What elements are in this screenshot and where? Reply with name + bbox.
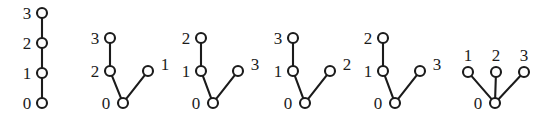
tree-edge — [112, 75, 122, 99]
tree-4: 0123 — [274, 29, 352, 113]
tree-node-label: 1 — [23, 64, 32, 83]
tree-node — [37, 8, 47, 18]
tree-3: 0132 — [182, 29, 260, 113]
tree-node-label: 2 — [182, 29, 191, 48]
tree-node-label: 1 — [274, 62, 283, 81]
tree-node — [37, 68, 47, 78]
tree-node-label: 1 — [161, 55, 170, 74]
tree-node — [378, 66, 388, 76]
tree-node-label: 0 — [23, 94, 32, 113]
tree-node-label: 1 — [182, 62, 191, 81]
tree-node-label: 2 — [91, 62, 100, 81]
tree-node — [491, 67, 501, 77]
tree-node-label: 2 — [23, 34, 32, 53]
tree-node-label: 2 — [364, 29, 373, 48]
tree-diagram-figure: 012302130132012301320123 — [0, 0, 560, 118]
tree-edge — [498, 75, 521, 99]
tree-node — [37, 98, 47, 108]
tree-2: 0213 — [91, 29, 170, 113]
tree-node-label: 0 — [374, 94, 383, 113]
tree-node — [196, 33, 206, 43]
tree-node-label: 1 — [364, 62, 373, 81]
tree-node — [325, 66, 335, 76]
tree-edge — [216, 75, 235, 100]
tree-edge — [295, 75, 304, 99]
tree-1: 0123 — [23, 4, 47, 113]
tree-diagram-canvas: 012302130132012301320123 — [0, 0, 560, 118]
tree-edge — [398, 75, 417, 100]
tree-node-label: 3 — [520, 46, 529, 65]
tree-node-label: 0 — [192, 94, 201, 113]
tree-node — [143, 66, 153, 76]
tree-node-label: 0 — [284, 94, 293, 113]
tree-node-label: 3 — [433, 55, 442, 74]
tree-node-label: 3 — [274, 29, 283, 48]
tree-node — [490, 98, 500, 108]
tree-edge — [308, 75, 327, 100]
tree-node — [463, 67, 473, 77]
tree-node — [415, 66, 425, 76]
tree-node — [233, 66, 243, 76]
tree-node — [378, 33, 388, 43]
tree-node — [196, 66, 206, 76]
tree-node-label: 2 — [492, 46, 501, 65]
tree-node-label: 3 — [23, 4, 32, 23]
tree-node — [105, 66, 115, 76]
tree-node-label: 1 — [464, 46, 473, 65]
tree-node — [37, 38, 47, 48]
tree-node-label: 0 — [474, 94, 483, 113]
tree-edge — [126, 75, 145, 100]
tree-6: 0123 — [463, 46, 529, 113]
tree-node-label: 3 — [91, 29, 100, 48]
tree-node — [300, 98, 310, 108]
tree-edge — [203, 75, 212, 99]
tree-node — [288, 33, 298, 43]
tree-edge — [385, 75, 394, 99]
tree-node — [118, 98, 128, 108]
trees-group: 012302130132012301320123 — [23, 4, 529, 113]
tree-node-label: 2 — [343, 55, 352, 74]
tree-node-label: 0 — [102, 94, 111, 113]
tree-5: 0132 — [364, 29, 442, 113]
tree-node — [105, 33, 115, 43]
tree-node — [208, 98, 218, 108]
tree-node — [519, 67, 529, 77]
tree-node — [390, 98, 400, 108]
tree-node-label: 3 — [251, 55, 260, 74]
tree-node — [288, 66, 298, 76]
tree-edge — [495, 76, 496, 98]
